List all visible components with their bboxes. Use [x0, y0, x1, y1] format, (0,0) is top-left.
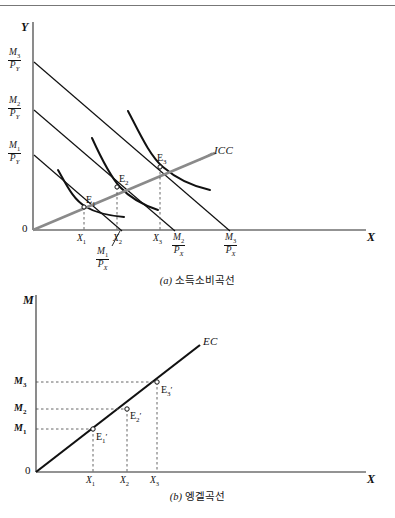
label-e2: E2: [119, 174, 129, 187]
figure-a-y-axis-label: Y: [21, 21, 28, 33]
figure-b-caption: (b) 엥겔곡선: [0, 488, 395, 503]
budget-line-2: [34, 110, 175, 231]
y-tick-m1: M1: [14, 423, 26, 436]
y-tick-m1-py: M1 PY: [8, 141, 21, 165]
label-e1: E1: [86, 195, 96, 208]
label-e2-prime: E2′: [130, 411, 142, 424]
x-intercept-m2-px: M2 PX: [172, 233, 185, 257]
figure-b-origin-label: 0: [25, 465, 31, 476]
figure-engel-curve: M X 0 M3 M2 M1 X1 X2 X3 E1′ E2′ E3′: [0, 288, 395, 518]
y-tick-m2-py: M2 PY: [8, 96, 21, 120]
icc-label: ICC: [214, 145, 233, 156]
figure-b-caption-text: 엥겔곡선: [185, 490, 225, 502]
figure-a-caption-text: 소득소비곡선: [175, 274, 235, 286]
icc-line: [33, 153, 215, 230]
budget-line-3: [34, 62, 230, 231]
x-tick-x3: X3: [153, 234, 162, 245]
figure-b-y-axis-label: M: [23, 294, 34, 306]
figure-page: Y X 0 M3 PY M2 PY M1 PY X1 X2 X3 M1 PX: [0, 0, 395, 518]
y-tick-m3: M3: [14, 376, 26, 389]
budget-line-1: [34, 155, 122, 231]
label-e1-prime: E1′: [96, 432, 108, 445]
figure-b-caption-letter: (b): [170, 491, 182, 502]
figure-a-caption: (a) 소득소비곡선: [0, 272, 395, 287]
x-intercept-m3-px: M3 PX: [224, 233, 237, 257]
x-tick-x1-b: X1: [86, 476, 95, 487]
label-e3: E3: [157, 153, 167, 166]
icc-leader: [200, 153, 212, 160]
x-tick-x1: X1: [77, 234, 86, 245]
figure-a-canvas: [0, 10, 395, 295]
figure-a-x-axis-label: X: [367, 231, 375, 243]
x-tick-x2-b: X2: [120, 476, 129, 487]
figure-a-caption-letter: (a): [160, 275, 172, 286]
figure-b-canvas: [0, 288, 395, 518]
equilibrium-point-e2-prime: [125, 407, 129, 411]
x-intercept-m1-px: M1 PX: [96, 247, 109, 271]
page-top-rule: [0, 5, 395, 6]
label-e3-prime: E3′: [161, 385, 173, 398]
x-tick-x2: X2: [113, 234, 122, 245]
figure-income-consumption-curve: Y X 0 M3 PY M2 PY M1 PY X1 X2 X3 M1 PX: [0, 10, 395, 295]
figure-b-x-axis-label: X: [367, 473, 375, 485]
equilibrium-point-e3-prime: [155, 380, 159, 384]
y-tick-m3-py: M3 PY: [8, 48, 21, 72]
x-tick-x3-b: X3: [150, 476, 159, 487]
equilibrium-point-e1-prime: [91, 427, 95, 431]
figure-a-origin-label: 0: [22, 223, 28, 234]
engel-curve-line: [36, 345, 200, 472]
ec-label: EC: [203, 336, 217, 347]
y-tick-m2: M2: [14, 403, 26, 416]
